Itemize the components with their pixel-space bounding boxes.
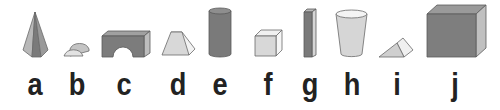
cube-large-icon xyxy=(427,5,486,57)
label-i: i xyxy=(384,64,410,104)
label-d: d xyxy=(165,64,191,104)
label-h: h xyxy=(339,64,365,104)
arch-block-icon xyxy=(102,31,150,57)
label-g: g xyxy=(297,64,323,104)
trapezoid-prism-icon xyxy=(162,32,195,55)
label-e: e xyxy=(207,64,233,104)
tall-bar-icon xyxy=(304,9,316,57)
cube-small-icon xyxy=(255,30,282,56)
cup-icon xyxy=(336,10,367,57)
label-a: a xyxy=(22,64,48,104)
pyramid-icon xyxy=(23,12,48,57)
half-cylinder-icon xyxy=(64,43,89,56)
label-b: b xyxy=(64,64,90,104)
cylinder-icon xyxy=(209,8,231,57)
label-j: j xyxy=(442,64,468,104)
triangular-prism-icon xyxy=(379,38,413,57)
label-c: c xyxy=(111,64,137,104)
label-f: f xyxy=(255,64,281,104)
